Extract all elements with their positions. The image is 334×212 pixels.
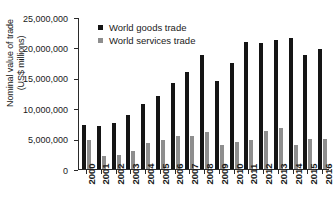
legend-item-goods: World goods trade	[98, 21, 195, 33]
bar-goods	[318, 49, 322, 169]
bar-goods	[274, 40, 278, 170]
x-axis-label: 2013	[279, 163, 289, 184]
x-axis-label: 2010	[235, 163, 245, 184]
x-axis-label: 2003	[131, 163, 141, 184]
bar-group	[318, 18, 327, 169]
y-axis-tick: 20,000,000	[74, 48, 78, 49]
x-axis-label-slot: 2004	[141, 174, 150, 212]
y-axis-tick-label: 0	[63, 166, 68, 176]
x-axis-label: 2001	[101, 163, 111, 184]
bar-goods	[259, 43, 263, 169]
y-axis-tick: 0	[74, 170, 78, 171]
bar-group	[303, 18, 312, 169]
x-axis-label-slot: 2000	[82, 174, 91, 212]
x-axis-labels: 2000200120022003200420052006200720082009…	[79, 174, 330, 212]
y-axis-tick-label: 5,000,000	[28, 135, 68, 145]
x-axis-label-slot: 2001	[97, 174, 106, 212]
x-axis-label: 2015	[309, 163, 319, 184]
y-axis-tick-label: 20,000,000	[23, 44, 68, 54]
x-axis-label-slot: 2010	[230, 174, 239, 212]
y-axis-tick: 15,000,000	[74, 79, 78, 80]
x-axis-label-slot: 2008	[201, 174, 210, 212]
x-axis-label-slot: 2003	[126, 174, 135, 212]
bar-group	[274, 18, 283, 169]
bar-goods	[156, 96, 160, 169]
x-axis-label: 2007	[190, 163, 200, 184]
bar-goods	[112, 123, 116, 169]
x-axis-label-slot: 2005	[156, 174, 165, 212]
bar-group	[259, 18, 268, 169]
x-axis-label: 2008	[205, 163, 215, 184]
bar-group	[215, 18, 224, 169]
x-axis-label: 2000	[87, 163, 97, 184]
x-axis-label: 2012	[264, 163, 274, 184]
legend-swatch-services-icon	[98, 38, 103, 43]
bar-goods	[303, 55, 307, 169]
x-axis-label: 2004	[146, 163, 156, 184]
x-axis-label-slot: 2016	[319, 174, 328, 212]
bar-group	[82, 18, 91, 169]
x-axis-label: 2006	[175, 163, 185, 184]
x-axis-label-slot: 2011	[245, 174, 254, 212]
bar-group	[244, 18, 253, 169]
x-axis-label: 2016	[324, 163, 334, 184]
x-axis-label: 2005	[161, 163, 171, 184]
bar-goods	[126, 115, 130, 169]
bar-goods	[244, 42, 248, 169]
bar-group	[289, 18, 298, 169]
y-axis-title-line1: Nominal value of trade	[5, 0, 16, 133]
x-axis-label-slot: 2013	[275, 174, 284, 212]
chart-legend: World goods trade World services trade	[98, 21, 195, 47]
y-axis-tick-label: 15,000,000	[23, 74, 68, 84]
y-axis-tick: 10,000,000	[74, 109, 78, 110]
y-axis-tick-label: 25,000,000	[23, 14, 68, 24]
y-axis-tick: 25,000,000	[74, 18, 78, 19]
bar-goods	[200, 55, 204, 169]
legend-label-goods: World goods trade	[109, 22, 186, 33]
bar-goods	[185, 72, 189, 169]
bar-goods	[289, 38, 293, 169]
bar-group	[200, 18, 209, 169]
y-axis-tick-label: 10,000,000	[23, 105, 68, 115]
x-axis-label-slot: 2014	[289, 174, 298, 212]
x-axis-label-slot: 2009	[215, 174, 224, 212]
bar-goods	[141, 104, 145, 169]
x-axis-label-slot: 2012	[260, 174, 269, 212]
bar-goods	[171, 83, 175, 169]
x-axis-label: 2002	[116, 163, 126, 184]
legend-item-services: World services trade	[98, 34, 195, 46]
bar-goods	[215, 81, 219, 169]
bar-goods	[82, 125, 86, 169]
legend-label-services: World services trade	[109, 35, 195, 46]
x-axis-label-slot: 2007	[186, 174, 195, 212]
x-axis-label: 2014	[294, 163, 304, 184]
x-axis-label-slot: 2006	[171, 174, 180, 212]
y-axis-tick: 5,000,000	[74, 140, 78, 141]
legend-swatch-goods-icon	[98, 25, 103, 30]
bar-goods	[230, 63, 234, 169]
x-axis-label-slot: 2002	[112, 174, 121, 212]
x-axis-label: 2009	[220, 163, 230, 184]
x-axis-label: 2011	[249, 164, 259, 185]
bar-group	[230, 18, 239, 169]
x-axis-label-slot: 2015	[304, 174, 313, 212]
